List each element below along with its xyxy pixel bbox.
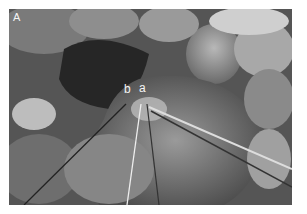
surgical-scene-illustration — [9, 9, 292, 205]
surgical-photo: A b a — [9, 9, 292, 205]
annotation-label-b: b — [124, 83, 131, 95]
annotation-label-a: a — [139, 82, 146, 94]
panel-label: A — [13, 12, 20, 23]
